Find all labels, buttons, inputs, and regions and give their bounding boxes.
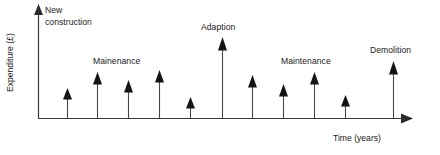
y-axis-label: Expenditure (£): [5, 33, 15, 92]
event-arrow-new-construction: [63, 88, 72, 118]
event-arrow-maintenance-4: [186, 97, 195, 118]
event-arrow-maintenance-6: [279, 84, 288, 118]
label-adaption: Adaption: [201, 22, 235, 32]
label-maintenance-left: Mainenance: [93, 56, 140, 66]
label-new-construction-line2: construction: [45, 17, 92, 27]
label-demolition: Demolition: [370, 45, 411, 55]
x-axis-arrowhead: [401, 114, 413, 124]
event-arrow-maintenance-8: [341, 95, 350, 118]
event-arrow-maintenance-1: [93, 72, 102, 118]
event-arrow-maintenance-5: [248, 75, 257, 118]
event-arrow-maintenance-3: [155, 70, 164, 118]
chart-canvas: Expenditure (£) Time (years) New constru…: [0, 0, 440, 155]
event-arrow-demolition: [389, 61, 398, 118]
event-arrow-adaption: [218, 37, 227, 118]
label-maintenance-right: Maintenance: [281, 56, 331, 66]
event-arrow-maintenance-7: [310, 72, 319, 118]
x-axis: [38, 114, 413, 124]
y-axis-arrowhead: [34, 4, 43, 15]
x-axis-label: Time (years): [333, 133, 381, 143]
y-axis: [34, 4, 43, 118]
expenditure-timeline-figure: Expenditure (£) Time (years) New constru…: [0, 0, 440, 155]
event-arrow-maintenance-2: [124, 80, 133, 118]
label-new-construction-line1: New: [45, 5, 63, 15]
